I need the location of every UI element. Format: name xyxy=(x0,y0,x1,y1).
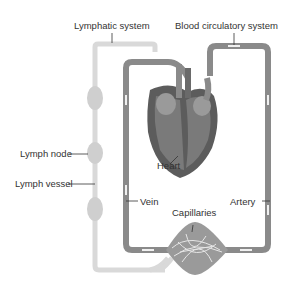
lymph-nodes xyxy=(87,86,103,221)
label-lymph-node: Lymph node xyxy=(20,148,72,159)
capillaries-bed xyxy=(166,222,228,275)
label-blood-circulatory-system: Blood circulatory system xyxy=(175,20,278,31)
label-vein: Vein xyxy=(140,196,159,207)
label-capillaries: Capillaries xyxy=(172,207,216,218)
label-lymph-vessel: Lymph vessel xyxy=(15,178,73,189)
label-heart: Heart xyxy=(157,160,180,171)
label-artery: Artery xyxy=(230,196,255,207)
label-lymphatic-system: Lymphatic system xyxy=(74,20,150,31)
